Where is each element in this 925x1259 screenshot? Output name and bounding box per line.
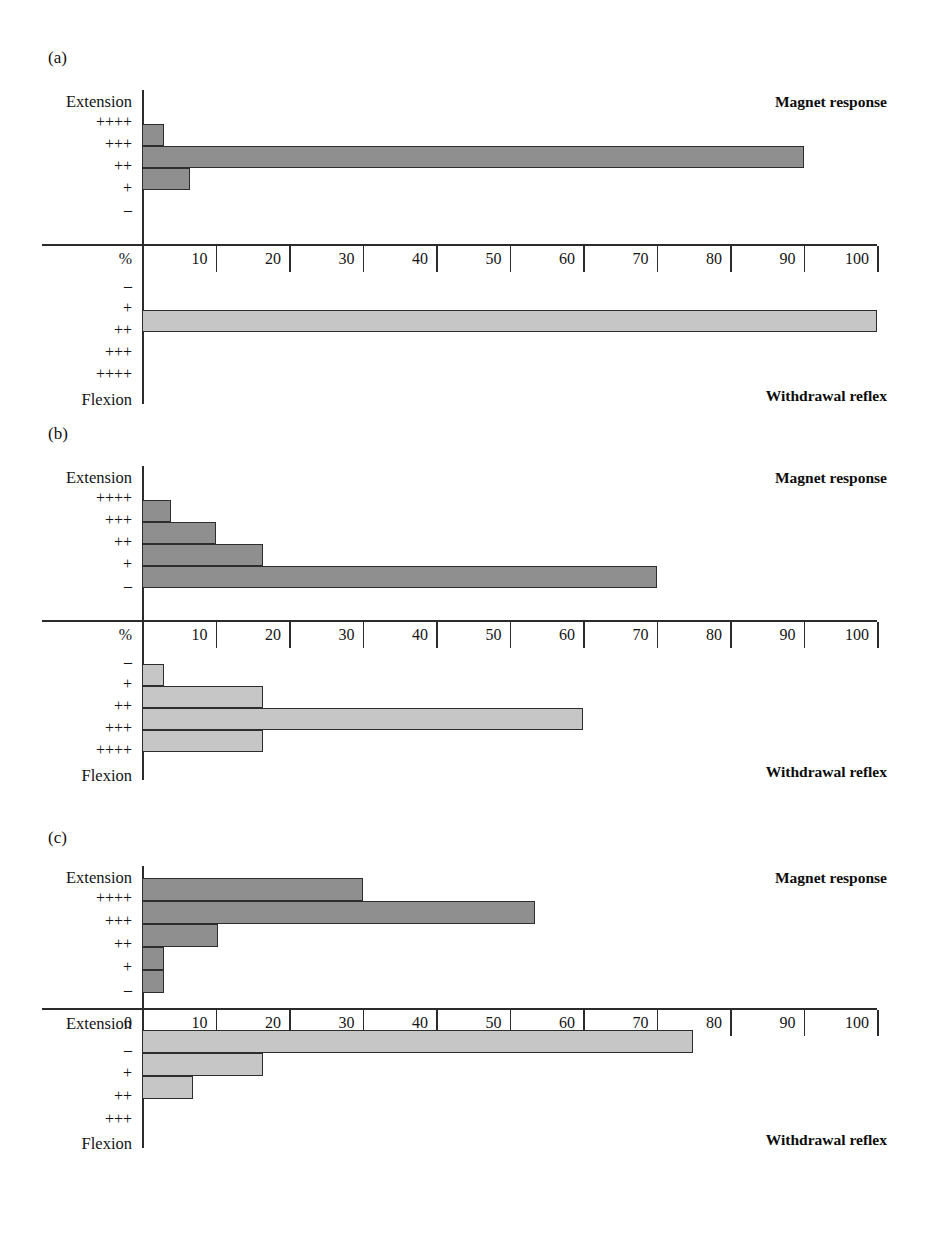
x-axis-baseline — [42, 620, 877, 622]
withdrawal-category-label: ++ — [0, 322, 132, 338]
x-tick — [877, 622, 879, 648]
x-tick — [363, 622, 365, 648]
magnet-bar — [142, 924, 218, 947]
panel-letter-b: (b) — [48, 424, 68, 444]
x-tick-label: 10 — [152, 626, 208, 644]
x-tick — [657, 246, 659, 272]
x-tick — [877, 1010, 879, 1036]
x-tick-label: 70 — [593, 250, 649, 268]
magnet-response-title: Magnet response — [775, 869, 887, 887]
x-tick-label: 30 — [299, 626, 355, 644]
withdrawal-bar — [142, 1076, 193, 1099]
x-tick-label: 90 — [740, 250, 796, 268]
withdrawal-category-label: + — [0, 676, 132, 692]
panel-letter-c: (c) — [48, 828, 67, 848]
x-tick-label: 90 — [740, 626, 796, 644]
x-tick — [289, 622, 291, 648]
withdrawal-bar — [142, 310, 877, 332]
x-tick-label: 90 — [740, 1014, 796, 1032]
x-tick — [804, 622, 806, 648]
magnet-bar — [142, 566, 657, 588]
magnet-category-label: +++ — [0, 913, 132, 929]
withdrawal-category-label: – — [0, 278, 132, 294]
magnet-category-label: ++ — [0, 936, 132, 952]
x-axis-baseline — [42, 244, 877, 246]
withdrawal-reflex-title: Withdrawal reflex — [766, 387, 887, 405]
magnet-bar — [142, 522, 216, 544]
x-tick — [730, 246, 732, 272]
magnet-bar — [142, 124, 164, 146]
x-tick — [804, 246, 806, 272]
magnet-category-label: ++++ — [0, 114, 132, 130]
magnet-category-label: + — [0, 180, 132, 196]
withdrawal-category-label: ++ — [0, 1088, 132, 1104]
bottom-corner-label-a: Flexion — [0, 392, 132, 409]
withdrawal-reflex-title: Withdrawal reflex — [766, 763, 887, 781]
x-tick-label: 50 — [446, 250, 502, 268]
magnet-bar — [142, 947, 164, 970]
x-tick — [657, 622, 659, 648]
x-tick — [583, 622, 585, 648]
axis-unit-label: % — [0, 626, 132, 644]
magnet-bar — [142, 500, 171, 522]
bottom-corner-label-b: Flexion — [0, 768, 132, 785]
x-tick-label: 70 — [593, 626, 649, 644]
x-tick-label: 100 — [813, 626, 869, 644]
x-tick — [289, 246, 291, 272]
top-corner-label-a: Extension — [0, 94, 132, 111]
withdrawal-bar — [142, 664, 164, 686]
x-tick — [436, 622, 438, 648]
panel-letter-a: (a) — [48, 48, 67, 68]
x-tick — [877, 246, 879, 272]
withdrawal-category-label: +++ — [0, 344, 132, 360]
x-tick — [363, 246, 365, 272]
top-corner-label-b: Extension — [0, 470, 132, 487]
x-tick — [804, 1010, 806, 1036]
x-tick-label: 50 — [446, 626, 502, 644]
x-tick — [730, 622, 732, 648]
magnet-category-label: – — [0, 578, 132, 594]
withdrawal-bar — [142, 1053, 263, 1076]
magnet-category-label: + — [0, 556, 132, 572]
x-tick-label: 60 — [519, 250, 575, 268]
x-tick-label: 40 — [372, 250, 428, 268]
x-tick — [436, 246, 438, 272]
x-tick-label: 10 — [152, 250, 208, 268]
x-tick — [216, 622, 218, 648]
magnet-category-label: ++ — [0, 158, 132, 174]
withdrawal-category-label: +++ — [0, 720, 132, 736]
magnet-category-label: +++ — [0, 512, 132, 528]
bottom-corner-label-c: Flexion — [0, 1136, 132, 1153]
withdrawal-category-label: ++++ — [0, 366, 132, 382]
withdrawal-category-label: – — [0, 654, 132, 670]
x-tick — [583, 246, 585, 272]
top-corner-label-c: Extension — [0, 870, 132, 887]
x-axis-baseline — [42, 1008, 877, 1010]
magnet-bar — [142, 544, 263, 566]
x-tick-label: 80 — [666, 250, 722, 268]
magnet-bar — [142, 878, 363, 901]
magnet-bar — [142, 146, 804, 168]
magnet-bar — [142, 168, 190, 190]
x-tick — [216, 246, 218, 272]
withdrawal-category-label: + — [0, 300, 132, 316]
magnet-bar — [142, 970, 164, 993]
withdrawal-category-label: +++ — [0, 1111, 132, 1127]
magnet-category-label: ++++ — [0, 890, 132, 906]
magnet-category-label: ++++ — [0, 490, 132, 506]
x-tick-label: 100 — [813, 250, 869, 268]
x-tick — [510, 246, 512, 272]
withdrawal-category-label: ++++ — [0, 742, 132, 758]
withdrawal-bar — [142, 686, 263, 708]
magnet-category-label: – — [0, 982, 132, 998]
magnet-response-title: Magnet response — [775, 469, 887, 487]
withdrawal-category-label: + — [0, 1065, 132, 1081]
magnet-response-title: Magnet response — [775, 93, 887, 111]
x-tick-label: 20 — [225, 250, 281, 268]
withdrawal-category-label: ++ — [0, 698, 132, 714]
magnet-category-label: +++ — [0, 136, 132, 152]
withdrawal-bar — [142, 730, 263, 752]
x-tick-label: 30 — [299, 250, 355, 268]
magnet-category-label: ++ — [0, 534, 132, 550]
axis-unit-label: % — [0, 250, 132, 268]
